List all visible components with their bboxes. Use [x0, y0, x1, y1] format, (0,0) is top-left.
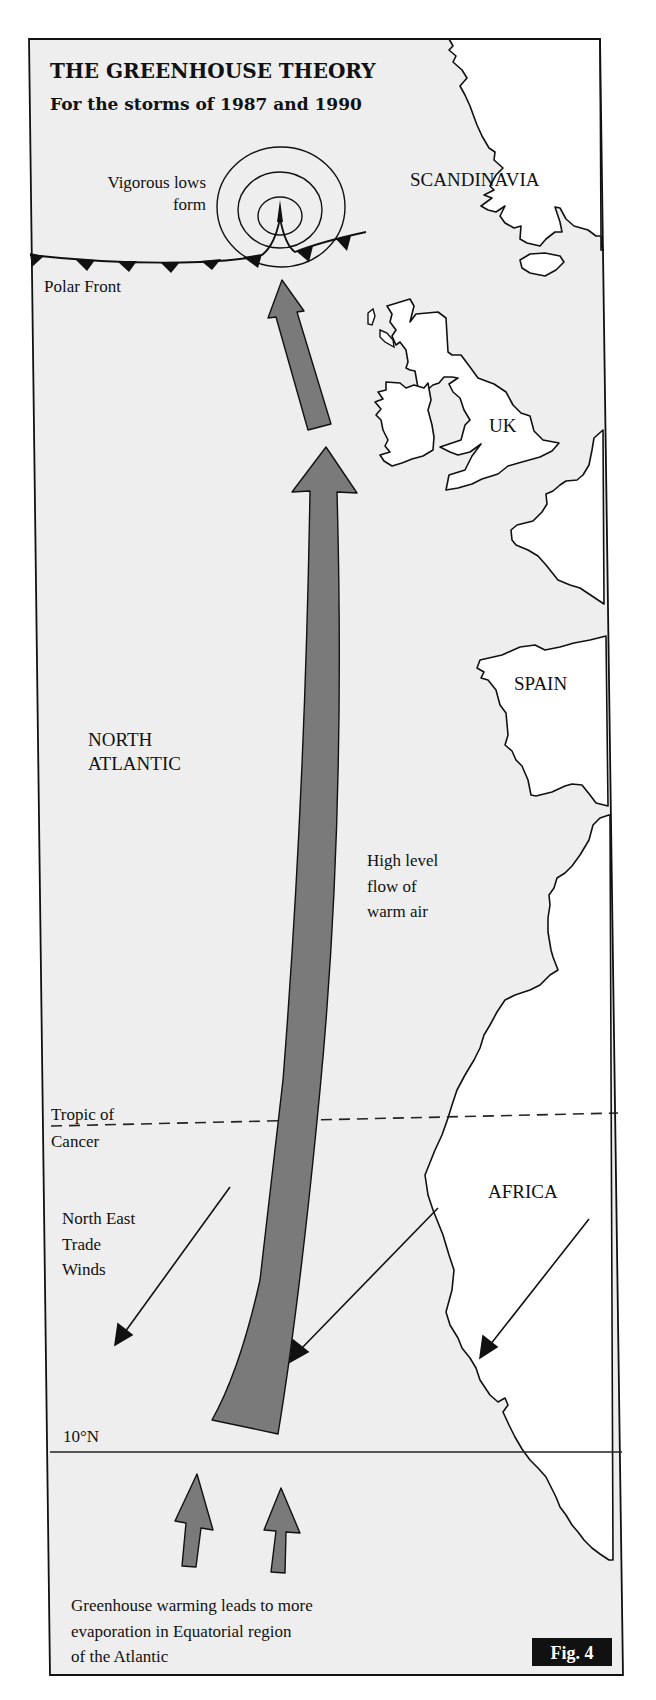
- map-subtitle: For the storms of 1987 and 1990: [50, 94, 362, 114]
- map-title: THE GREENHOUSE THEORY: [50, 59, 376, 83]
- caption-line-1: Greenhouse warming leads to more: [71, 1596, 313, 1615]
- label-10n: 10°N: [63, 1427, 99, 1446]
- label-polar-front: Polar Front: [44, 277, 121, 296]
- label-high-level: High level: [367, 851, 439, 870]
- label-north: NORTH: [88, 729, 153, 750]
- greenhouse-theory-map: THE GREENHOUSE THEORY For the storms of …: [0, 0, 656, 1700]
- caption-line-2: evaporation in Equatorial region: [71, 1622, 292, 1641]
- figure-badge-label: Fig. 4: [551, 1643, 594, 1663]
- label-scandinavia: SCANDINAVIA: [410, 169, 540, 190]
- label-cancer: Cancer: [51, 1132, 99, 1151]
- label-tropic-of: Tropic of: [51, 1105, 114, 1124]
- caption-line-3: of the Atlantic: [71, 1647, 169, 1666]
- label-uk: UK: [489, 415, 517, 436]
- label-warm-air: warm air: [367, 902, 428, 921]
- label-north-east: North East: [62, 1209, 135, 1228]
- label-atlantic: ATLANTIC: [88, 753, 181, 774]
- label-spain: SPAIN: [514, 673, 567, 694]
- label-trade: Trade: [62, 1235, 101, 1254]
- label-flow-of: flow of: [367, 877, 417, 896]
- ireland-landmass: [375, 382, 434, 466]
- label-winds: Winds: [62, 1260, 106, 1279]
- label-africa: AFRICA: [488, 1181, 558, 1202]
- label-vigorous-lows: Vigorous lows: [107, 173, 206, 192]
- label-vigorous-lows-form: form: [173, 195, 206, 214]
